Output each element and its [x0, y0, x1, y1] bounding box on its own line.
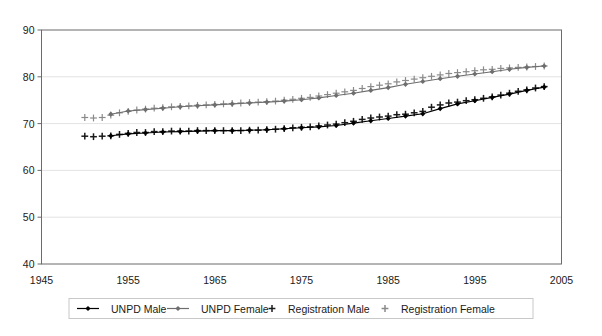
y-tick-label: 60	[23, 164, 35, 176]
diamond-marker	[230, 128, 235, 133]
diamond-marker	[143, 107, 148, 112]
diamond-marker	[282, 99, 287, 104]
x-tick-label: 1945	[30, 274, 54, 286]
legend-item-label: UNPD Female	[201, 303, 269, 315]
diamond-marker	[368, 88, 373, 93]
diamond-marker	[212, 102, 217, 107]
diamond-marker	[264, 100, 269, 105]
life-expectancy-chart: 405060708090 194519551965197519851995200…	[0, 0, 602, 336]
y-tick-label: 80	[23, 71, 35, 83]
diamond-marker	[455, 74, 460, 79]
diamond-marker	[316, 124, 321, 129]
diamond-marker	[126, 131, 131, 136]
diamond-marker	[490, 95, 495, 100]
legend-item-label: Registration Male	[288, 303, 370, 315]
diamond-marker	[178, 129, 183, 134]
diamond-marker	[143, 130, 148, 135]
y-tick-label: 40	[23, 258, 35, 270]
series-registration-female	[81, 63, 547, 122]
x-tick-label: 2005	[550, 274, 574, 286]
y-tick-label: 70	[23, 118, 35, 130]
x-tick-label: 1975	[290, 274, 314, 286]
chart-legend[interactable]: UNPD MaleUNPD FemaleRegistration MaleReg…	[69, 299, 533, 319]
chart-canvas: 405060708090 194519551965197519851995200…	[0, 0, 602, 336]
diamond-marker	[108, 133, 113, 138]
y-tick-label: 90	[23, 24, 35, 36]
diamond-marker	[247, 100, 252, 105]
diamond-marker	[195, 129, 200, 134]
x-axis-tick-labels: 1945195519651975198519952005	[30, 274, 574, 286]
plot-frame	[42, 30, 562, 264]
y-tick-label: 50	[23, 211, 35, 223]
diamond-marker	[212, 128, 217, 133]
x-tick-label: 1985	[376, 274, 400, 286]
diamond-marker	[368, 118, 373, 123]
diamond-marker	[472, 98, 477, 103]
diamond-marker	[542, 63, 547, 68]
diamond-marker	[438, 106, 443, 111]
series-line	[111, 66, 544, 114]
diamond-marker	[472, 71, 477, 76]
diamond-marker	[542, 85, 547, 90]
series-registration-male	[81, 83, 547, 140]
diamond-marker	[524, 65, 529, 70]
x-tick-label: 1955	[116, 274, 140, 286]
diamond-marker	[108, 112, 113, 117]
diamond-marker	[282, 126, 287, 131]
diamond-marker	[403, 82, 408, 87]
diamond-marker	[420, 79, 425, 84]
x-tick-label: 1995	[463, 274, 487, 286]
diamond-marker	[264, 127, 269, 132]
diamond-marker	[524, 88, 529, 93]
y-axis-tick-labels: 405060708090	[23, 24, 42, 270]
diamond-marker	[178, 104, 183, 109]
diamond-marker	[247, 128, 252, 133]
legend-item-label: UNPD Male	[111, 303, 167, 315]
series-unpd-female	[108, 63, 547, 116]
series-layer	[81, 63, 547, 141]
plot-border	[42, 30, 562, 264]
diamond-marker	[351, 91, 356, 96]
diamond-marker	[160, 129, 165, 134]
diamond-marker	[230, 101, 235, 106]
diamond-marker	[386, 85, 391, 90]
diamond-marker	[195, 103, 200, 108]
diamond-marker	[126, 108, 131, 113]
diamond-marker	[299, 125, 304, 130]
diamond-marker	[160, 106, 165, 111]
diamond-marker	[507, 92, 512, 97]
x-tick-label: 1965	[203, 274, 227, 286]
legend-item-label: Registration Female	[401, 303, 495, 315]
